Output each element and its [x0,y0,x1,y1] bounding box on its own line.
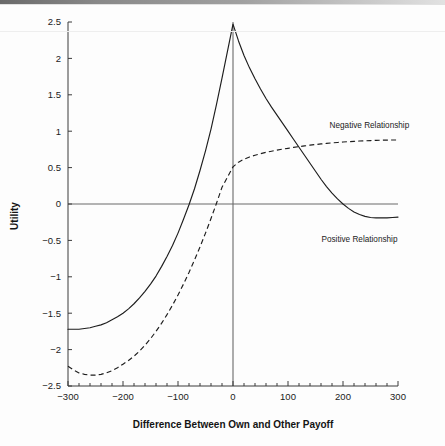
x-axis: −300−200−1000100200300 [57,381,406,402]
x-axis-title: Difference Between Own and Other Payoff [133,419,334,430]
y-tick-label: −2 [50,344,61,355]
scan-artifact-band-secondary [0,4,445,5]
plot-area [68,22,398,386]
y-tick-label: −0.5 [42,235,61,246]
x-tick-label: −100 [167,391,188,402]
x-tick-label: 100 [280,391,296,402]
y-tick-label: −1.5 [42,308,61,319]
utility-payoff-line-chart: 2.521.510.50−0.5−1−1.5−2−2.5 −300−200−10… [0,0,445,446]
y-tick-label: 0.5 [48,162,61,173]
y-tick-label: 2 [56,53,61,64]
x-tick-label: 200 [335,391,351,402]
y-axis: 2.521.510.50−0.5−1−1.5−2−2.5 [42,16,72,391]
y-tick-label: −1 [50,271,61,282]
y-tick-label: 2.5 [48,16,61,27]
x-tick-label: −200 [112,391,133,402]
y-axis-title: Utility [9,202,20,230]
y-tick-label: 0 [56,198,61,209]
scan-artifact-line [0,31,445,32]
y-tick-label: 1.5 [48,89,61,100]
figure-root: 2.521.510.50−0.5−1−1.5−2−2.5 −300−200−10… [0,0,445,446]
x-tick-label: 300 [390,391,406,402]
y-tick-label: 1 [56,126,61,137]
series-label-negative-relationship: Negative Relationship [330,121,410,130]
series-label-positive-relationship: Positive Relationship [321,235,397,244]
x-tick-label: 0 [230,391,235,402]
series-annotations: Positive RelationshipNegative Relationsh… [321,121,409,244]
y-tick-label: −2.5 [42,380,61,391]
x-tick-label: −300 [57,391,78,402]
